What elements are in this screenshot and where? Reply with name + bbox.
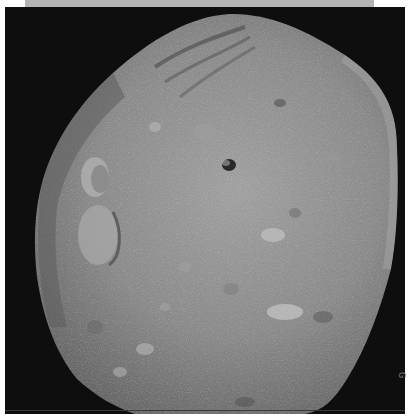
edge-caption-fragment: G [397,372,405,378]
asteroid-body [5,7,405,414]
asteroid-photo [5,7,405,414]
top-gray-bar [25,0,374,7]
asteroid-illustration [5,7,405,414]
panel-bottom-edge [5,410,405,411]
